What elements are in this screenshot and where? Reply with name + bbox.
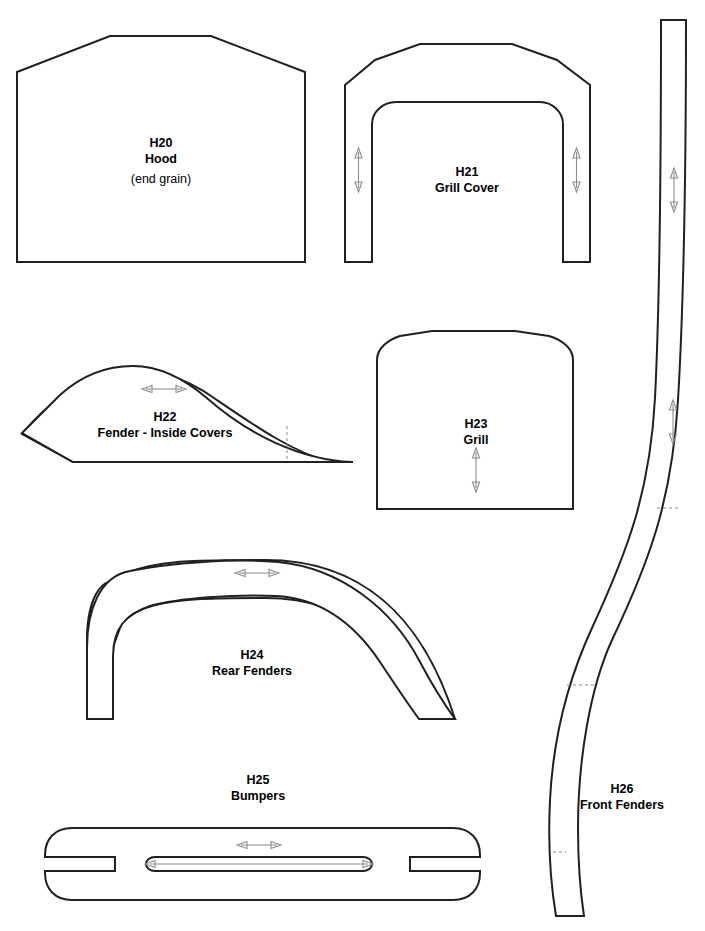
piece-h25-bumpers: H25 Bumpers	[45, 773, 480, 900]
h22-code-label: H22	[154, 410, 177, 424]
h20-code-label: H20	[150, 136, 173, 150]
h21-name-label: Grill Cover	[435, 181, 499, 195]
h25-code-label: H25	[247, 773, 270, 787]
piece-h22-fender-inside-covers: H22 Fender - Inside Covers	[22, 366, 353, 462]
h23-code-label: H23	[465, 417, 488, 431]
h21-code-label: H21	[456, 165, 479, 179]
piece-h24-rear-fenders: H24 Rear Fenders	[87, 560, 455, 719]
h22-outline-main	[22, 366, 352, 462]
h24-name-label: Rear Fenders	[212, 664, 292, 678]
h20-note-label: (end grain)	[131, 172, 191, 186]
piece-h23-grill: H23 Grill	[377, 331, 573, 509]
h26-name-label: Front Fenders	[580, 798, 664, 812]
h24-outline-arch	[87, 561, 455, 719]
piece-h20-hood: H20 Hood (end grain)	[17, 36, 305, 262]
h21-outline	[345, 44, 590, 262]
piece-h21-grill-cover: H21 Grill Cover	[345, 44, 590, 262]
h23-name-label: Grill	[463, 433, 488, 447]
h26-code-label: H26	[611, 782, 634, 796]
h24-code-label: H24	[241, 648, 264, 662]
h25-name-label: Bumpers	[231, 789, 285, 803]
h20-name-label: Hood	[145, 152, 177, 166]
h22-name-label: Fender - Inside Covers	[98, 426, 233, 440]
pattern-sheet: H20 Hood (end grain) H21 Grill Cover	[0, 0, 705, 931]
